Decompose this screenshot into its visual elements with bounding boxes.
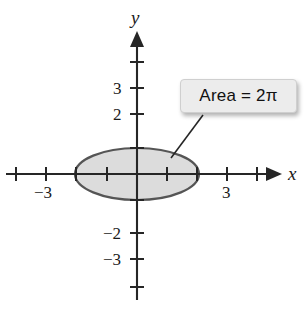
y-axis-label: y (131, 8, 139, 27)
x-axis-arrow-icon (266, 167, 282, 181)
area-callout-text: Area = 2π (199, 86, 277, 106)
figure-canvas: y x −3 3 3 2 −2 −3 Area = 2π (0, 0, 308, 318)
y-tick-label-3: 3 (113, 80, 122, 97)
y-tick-label-2: 2 (113, 106, 122, 123)
x-tick-label-neg3: −3 (34, 184, 52, 201)
y-tick-label-neg3: −3 (103, 251, 121, 268)
x-axis-label: x (288, 164, 296, 183)
area-callout-box: Area = 2π (180, 79, 297, 113)
y-tick-label-neg2: −2 (103, 225, 121, 242)
plot-svg (0, 0, 308, 318)
x-tick-label-3: 3 (222, 184, 231, 201)
callout-leader-line (171, 115, 203, 158)
y-axis-arrow-icon (130, 31, 144, 47)
